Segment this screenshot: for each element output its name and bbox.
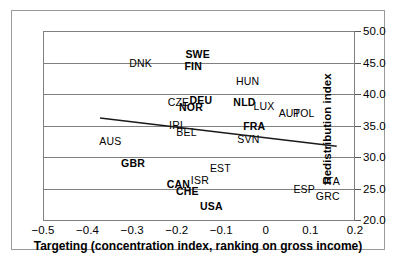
x-axis-tick-label: −0.3 bbox=[121, 224, 144, 236]
y-axis-tick bbox=[355, 31, 361, 32]
y-axis-tick bbox=[355, 94, 361, 95]
y-axis-tick-label: 30.0 bbox=[363, 151, 386, 163]
data-point-label-gbr: GBR bbox=[121, 157, 145, 169]
x-axis-tick-label: −0.4 bbox=[76, 224, 99, 236]
y-axis-tick-label: 20.0 bbox=[363, 214, 386, 226]
plot-area: SWEDNKFINHUNCZEDEUNLDNORLUXAUTPOLIRLFRAB… bbox=[43, 31, 355, 220]
data-point-label-lux: LUX bbox=[254, 100, 275, 112]
gridline bbox=[43, 126, 355, 127]
x-axis-tick-label: 0 bbox=[263, 224, 270, 236]
y-axis-tick-label: 25.0 bbox=[363, 183, 386, 195]
x-axis-tick-label: −0.2 bbox=[165, 224, 188, 236]
y-axis-tick bbox=[355, 126, 361, 127]
gridline bbox=[43, 31, 355, 32]
x-axis-tick-label: −0.5 bbox=[31, 224, 54, 236]
data-point-label-fra: FRA bbox=[243, 120, 265, 132]
y-axis-tick-label: 40.0 bbox=[363, 88, 386, 100]
x-axis-tick-label: 0.1 bbox=[302, 224, 318, 236]
data-point-label-hun: HUN bbox=[236, 75, 259, 87]
gridline bbox=[43, 157, 355, 158]
x-axis-title: Targeting (concentration index, ranking … bbox=[12, 239, 384, 253]
y-axis-title: Redistribution index bbox=[320, 73, 332, 184]
data-point-label-dnk: DNK bbox=[129, 57, 152, 69]
data-point-label-aus: AUS bbox=[99, 135, 121, 147]
data-point-label-usa: USA bbox=[200, 200, 223, 212]
y-axis-tick-label: 45.0 bbox=[363, 57, 386, 69]
y-axis-tick bbox=[355, 189, 361, 190]
gridline bbox=[43, 220, 355, 221]
chart-frame: SWEDNKFINHUNCZEDEUNLDNORLUXAUTPOLIRLFRAB… bbox=[11, 10, 385, 250]
x-axis-tick-label: −0.1 bbox=[210, 224, 233, 236]
data-point-label-nld: NLD bbox=[233, 96, 255, 108]
x-axis-tick-label: 0.2 bbox=[347, 224, 363, 236]
y-axis-tick bbox=[355, 63, 361, 64]
y-axis-tick bbox=[355, 157, 361, 158]
data-point-label-fin: FIN bbox=[184, 60, 202, 72]
y-axis-tick-label: 50.0 bbox=[363, 25, 386, 37]
data-point-label-nor: NOR bbox=[179, 101, 203, 113]
axis-line-left bbox=[43, 31, 44, 220]
data-point-label-svn: SVN bbox=[237, 133, 259, 145]
y-axis-tick-label: 35.0 bbox=[363, 120, 386, 132]
data-point-label-est: EST bbox=[210, 162, 231, 174]
data-point-label-bel: BEL bbox=[176, 126, 196, 138]
y-axis-tick bbox=[355, 220, 361, 221]
data-point-label-grc: GRC bbox=[316, 190, 340, 202]
data-point-label-swe: SWE bbox=[185, 48, 210, 60]
data-point-label-che: CHE bbox=[176, 185, 199, 197]
data-point-label-isr: ISR bbox=[191, 174, 209, 186]
data-point-label-pol: POL bbox=[293, 107, 315, 119]
data-point-label-esp: ESP bbox=[293, 183, 315, 195]
